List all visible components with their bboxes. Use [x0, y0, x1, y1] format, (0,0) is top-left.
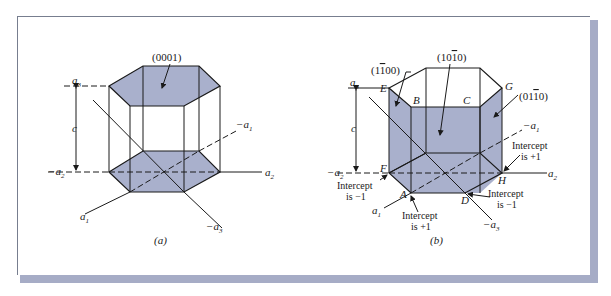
axis-label-neg-a2: −a2 — [48, 165, 65, 180]
axis-label-neg-a2-b: −a2 — [327, 166, 344, 181]
plane-label-01-10: (0110) — [519, 90, 548, 103]
vertex-E: E — [379, 82, 387, 94]
axis-label-a2-b: a2 — [548, 167, 558, 182]
intercept-F-line2: is −1 — [346, 191, 366, 202]
vertex-G: G — [505, 80, 513, 92]
caption-b: (b) — [430, 234, 443, 247]
axis-label-neg-a3-b: −a3 — [483, 218, 500, 233]
basal-plane-top — [109, 66, 220, 106]
plane-label-1-100: (1100) — [371, 64, 400, 77]
dimension-label-c-b: c — [351, 122, 356, 134]
hexagonal-crystal-diagram: (0001) a3 c −a2 a2 −a1 a1 −a3 (a) — [0, 0, 611, 296]
vertex-F: F — [379, 162, 387, 174]
axis-label-a3: a3 — [72, 74, 82, 89]
intercept-F-line1: Intercept — [337, 180, 373, 191]
axis-label-neg-a3: −a3 — [206, 220, 223, 235]
vertex-C: C — [463, 94, 471, 106]
intercept-A-line1: Intercept — [402, 210, 438, 221]
intercept-D-line1: Intercept — [488, 188, 524, 199]
plane-label-0001: (0001) — [152, 51, 182, 64]
intercept-H-line2: is +1 — [521, 151, 541, 162]
plane-label-10-10: (1010) — [437, 51, 467, 64]
axis-label-neg-a1-b: −a1 — [523, 119, 539, 134]
intercept-D-line2: is −1 — [497, 199, 517, 210]
intercept-H-line1: Intercept — [512, 140, 548, 151]
vertex-H: H — [497, 174, 507, 186]
axis-label-neg-a1: −a1 — [236, 118, 252, 133]
intercept-A-line2: is +1 — [411, 221, 431, 232]
vertex-A: A — [399, 188, 407, 200]
dimension-label-c: c — [72, 122, 77, 134]
axis-label-a3-b: a3 — [350, 76, 360, 91]
caption-a: (a) — [154, 234, 167, 247]
axis-label-a2: a2 — [265, 166, 275, 181]
axis-label-a1-b: a1 — [372, 204, 381, 219]
vertex-D: D — [460, 194, 469, 206]
vertex-B: B — [413, 94, 420, 106]
